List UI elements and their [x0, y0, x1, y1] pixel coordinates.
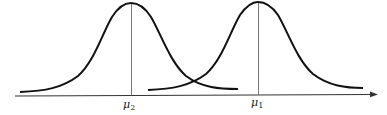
diagram-canvas [0, 0, 387, 115]
x-axis [15, 95, 372, 97]
curve-mu2 [20, 3, 238, 92]
mean-label-mu2: μ2 [123, 99, 135, 112]
mu2-subscript: 2 [130, 103, 135, 112]
curve-mu1 [148, 2, 363, 90]
mean-label-mu1: μ1 [251, 97, 263, 110]
mu1-subscript: 1 [258, 101, 263, 110]
normal-distributions-diagram: μ2 μ1 [0, 0, 387, 115]
x-axis-arrowhead-icon [370, 92, 378, 98]
